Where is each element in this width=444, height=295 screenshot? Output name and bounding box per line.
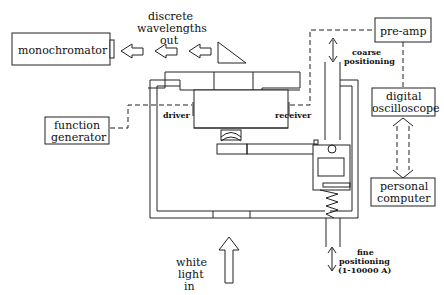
oscilloscope-computer-link-icon — [393, 118, 413, 178]
fine-positioning-rod — [326, 218, 340, 247]
light-out-arrow-icon — [121, 44, 211, 58]
driver-label: driver — [163, 110, 191, 120]
svg-text:generator: generator — [51, 131, 107, 144]
svg-text:(1-10000 A): (1-10000 A) — [338, 265, 391, 275]
cantilever-arm — [217, 144, 317, 154]
function-generator-box: function generator — [45, 117, 109, 144]
svg-text:pre-amp: pre-amp — [380, 25, 427, 38]
svg-text:positioning: positioning — [344, 56, 395, 66]
svg-text:oscilloscope: oscilloscope — [372, 102, 440, 115]
fine-positioning-arrow-icon — [328, 247, 336, 271]
personal-computer-box: personal computer — [371, 178, 435, 206]
discrete-wavelengths-label: discrete wavelengths out — [137, 10, 207, 47]
monochromator-box: monochromator — [12, 33, 114, 65]
fine-positioning-label: fine positioning (1-10000 A) — [338, 247, 391, 275]
coarse-positioning-arrow-icon — [329, 38, 337, 62]
pre-amp-box: pre-amp — [375, 18, 431, 42]
scanner-assembly — [313, 140, 350, 218]
svg-text:in: in — [184, 280, 195, 293]
prism-icon — [218, 42, 246, 63]
receiver-label: receiver — [275, 110, 312, 120]
sample-block — [193, 90, 289, 128]
white-light-label: white light in — [176, 256, 207, 293]
light-in-arrow-icon — [219, 237, 239, 283]
digital-oscilloscope-box: digital oscilloscope — [372, 88, 440, 116]
lens-icon — [221, 130, 241, 141]
svg-text:out: out — [160, 34, 179, 47]
svg-text:computer: computer — [377, 192, 431, 205]
coarse-positioning-rod — [325, 62, 340, 140]
coarse-positioning-label: coarse positioning — [344, 47, 395, 66]
apparatus-diagram: monochromator discrete wavelengths out — [0, 0, 444, 295]
monochromator-label: monochromator — [18, 44, 108, 57]
